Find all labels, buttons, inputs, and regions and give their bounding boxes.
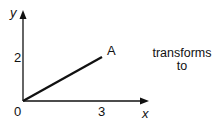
x-axis-arrow-icon [140, 98, 149, 105]
point-A-label: A [107, 44, 116, 57]
segment-OA [23, 57, 102, 101]
x-tick-label: 3 [98, 105, 105, 118]
origin-label: 0 [14, 105, 21, 118]
caption-line-2: to [150, 60, 214, 73]
y-tick-label: 2 [14, 51, 21, 64]
y-axis-label: y [10, 6, 17, 19]
y-axis-arrow-icon [20, 10, 27, 19]
transforms-caption: transforms to [150, 47, 214, 73]
x-axis-label: x [142, 107, 149, 120]
